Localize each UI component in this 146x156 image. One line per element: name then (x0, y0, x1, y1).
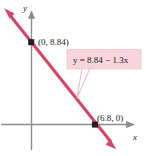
x-axis-label: x (132, 132, 137, 142)
callout-tail (77, 68, 90, 98)
y-axis-label: y (22, 3, 27, 13)
plotted-line (4, 8, 116, 149)
graph-figure: y x (0, 8.84) (6.8, 0) y = 8.84 − 1.3x (0, 0, 146, 156)
equation-label: y = 8.84 − 1.3x (73, 55, 129, 65)
line-graph-canvas: y x (0, 8.84) (6.8, 0) y = 8.84 − 1.3x (0, 0, 146, 156)
point-label-y-intercept: (0, 8.84) (38, 37, 69, 47)
point-marker-y-intercept (28, 39, 34, 45)
point-label-x-intercept: (6.8, 0) (97, 113, 123, 123)
line-arrowhead-lower-right (106, 139, 117, 149)
equation-callout: y = 8.84 − 1.3x (67, 50, 141, 99)
